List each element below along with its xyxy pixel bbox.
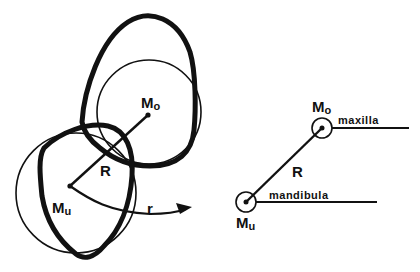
lower-thin-circle — [16, 133, 136, 253]
jaw-rotation-diagram: Mo Mu R r Mo maxilla R mandibula Mu — [0, 0, 420, 272]
left-mo-label: Mo — [141, 94, 161, 112]
left-panel — [16, 16, 201, 257]
right-mu-label: Mu — [236, 214, 255, 232]
mandibula-label: mandibula — [269, 189, 329, 201]
rotation-label: r — [147, 200, 153, 217]
maxilla-label: maxilla — [338, 114, 379, 126]
left-r-label: R — [100, 162, 111, 179]
lower-thick-outline — [40, 125, 132, 257]
maxilla-joint-dot — [320, 126, 325, 131]
upper-center-dot — [145, 112, 150, 117]
right-r-label: R — [292, 163, 303, 180]
mandibula-joint-dot — [244, 200, 249, 205]
upper-thick-outline — [82, 16, 195, 166]
right-mo-label: Mo — [312, 98, 332, 116]
left-mu-label: Mu — [52, 199, 71, 217]
lower-center-dot — [67, 183, 72, 188]
